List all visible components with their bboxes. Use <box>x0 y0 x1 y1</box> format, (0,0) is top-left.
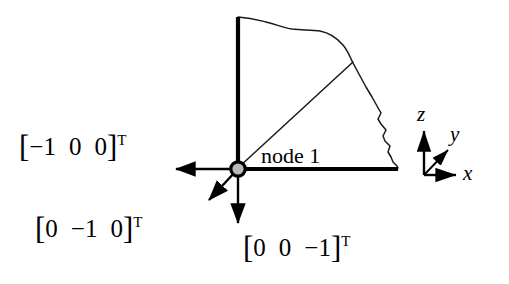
vector-component: 0 <box>69 134 82 159</box>
constraint-arrows <box>176 169 238 223</box>
bracket-open: [ <box>19 129 29 164</box>
bracket-open: [ <box>35 211 45 246</box>
node-1-label: node 1 <box>261 145 320 167</box>
vector-component: 0 <box>253 235 266 260</box>
node-constraint-figure: [−100]T [0−10]T [00−1]T node 1 z y x <box>0 0 509 284</box>
bracket-open: [ <box>243 230 253 265</box>
axis-y-arrow <box>424 150 448 175</box>
transpose-superscript: T <box>117 132 126 148</box>
vector-label-negative-x: [−100]T <box>19 131 127 162</box>
vector-component: 0 <box>279 235 292 260</box>
axis-z-label: z <box>417 104 425 125</box>
vector-component: 0 <box>94 134 107 159</box>
axis-x-label: x <box>463 163 472 184</box>
vector-component: −1 <box>29 134 56 159</box>
vector-component: −1 <box>71 216 98 241</box>
node-1-marker <box>231 162 245 176</box>
bracket-close: ] <box>123 211 133 246</box>
vector-label-negative-y: [0−10]T <box>35 213 143 244</box>
transpose-superscript: T <box>341 233 350 249</box>
axis-y-label: y <box>450 124 459 145</box>
bracket-close: ] <box>107 129 117 164</box>
vector-component: 0 <box>45 216 58 241</box>
vector-component: −1 <box>304 235 331 260</box>
vector-component: 0 <box>110 216 123 241</box>
bracket-close: ] <box>331 230 341 265</box>
vector-label-negative-z: [00−1]T <box>243 232 351 263</box>
transpose-superscript: T <box>133 214 142 230</box>
